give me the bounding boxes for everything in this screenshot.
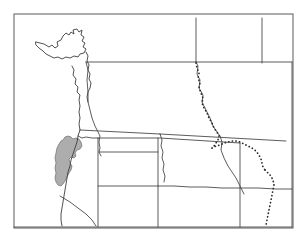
map-frame-border [14, 14, 293, 228]
map-canvas [0, 0, 308, 250]
range-map-figure [0, 0, 308, 250]
